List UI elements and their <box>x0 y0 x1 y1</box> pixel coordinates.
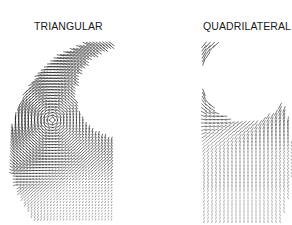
quadrilateral-vector-field <box>201 42 292 223</box>
panel-label-quadrilateral: QUADRILATERAL <box>203 20 291 32</box>
triangular-vector-field <box>10 42 114 221</box>
vector-field-plots <box>0 0 292 225</box>
figure: TRIANGULAR QUADRILATERAL <box>0 0 292 225</box>
panel-label-triangular: TRIANGULAR <box>34 20 103 32</box>
